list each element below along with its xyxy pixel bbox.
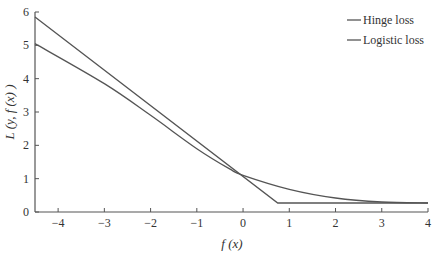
x-tick-label: 4 — [425, 216, 431, 230]
y-tick-label: 2 — [23, 138, 29, 152]
legend: Hinge lossLogistic loss — [347, 13, 424, 47]
y-tick-label: 3 — [23, 105, 29, 119]
x-tick-label: 2 — [333, 216, 339, 230]
y-axis-label: L (y, f (x) ) — [2, 85, 17, 141]
x-axis-label: f (x) — [221, 236, 242, 251]
legend-label: Hinge loss — [363, 13, 414, 27]
loss-chart: −4−3−2−1012340123456 Hinge lossLogistic … — [0, 0, 436, 255]
x-tick-label: 3 — [379, 216, 385, 230]
x-tick-label: −3 — [98, 216, 111, 230]
logistic-loss-line — [35, 44, 428, 203]
y-tick-label: 4 — [23, 72, 29, 86]
x-tick-label: −2 — [144, 216, 157, 230]
legend-label: Logistic loss — [363, 33, 424, 47]
y-tick-label: 5 — [23, 38, 29, 52]
x-tick-label: 1 — [286, 216, 292, 230]
y-tick-label: 0 — [23, 205, 29, 219]
y-tick-label: 6 — [23, 5, 29, 19]
x-tick-label: 0 — [240, 216, 246, 230]
y-tick-label: 1 — [23, 172, 29, 186]
x-tick-label: −1 — [190, 216, 203, 230]
x-tick-label: −4 — [52, 216, 65, 230]
